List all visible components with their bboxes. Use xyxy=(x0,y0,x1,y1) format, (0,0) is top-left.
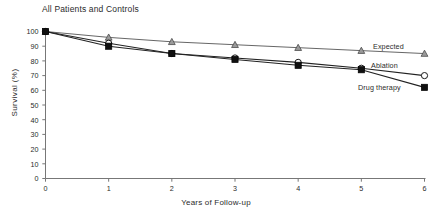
series-drug-therapy xyxy=(42,28,427,90)
data-point-marker xyxy=(232,56,238,62)
data-point-marker xyxy=(42,28,48,34)
data-point-marker xyxy=(106,43,112,49)
series-line xyxy=(46,32,425,76)
data-point-marker xyxy=(169,50,175,56)
plot-area xyxy=(0,0,432,218)
series-expected xyxy=(42,28,428,56)
series-ablation xyxy=(42,28,427,78)
axis-lines xyxy=(46,31,426,179)
data-point-marker xyxy=(421,84,427,90)
data-point-marker xyxy=(358,67,364,73)
survival-chart: All Patients and Controls Survival (%) Y… xyxy=(0,0,432,218)
data-point-marker xyxy=(295,62,301,68)
data-point-marker xyxy=(421,73,427,79)
